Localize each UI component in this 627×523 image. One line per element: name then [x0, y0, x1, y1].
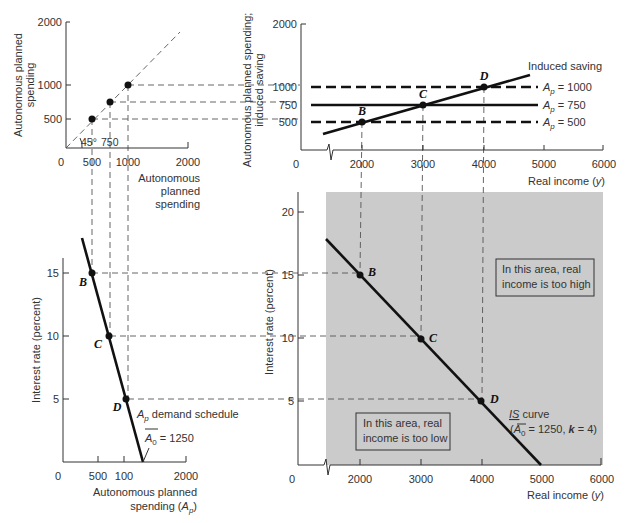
- tl-y-tick-1000: 1000: [38, 79, 62, 91]
- tl-y-label-2: spending: [24, 63, 36, 108]
- br-point-b: B: [367, 265, 376, 279]
- bl-point-d: D: [112, 400, 122, 414]
- br-point-d: D: [489, 392, 499, 406]
- tl-y-label-1: Autonomous planned: [12, 33, 24, 137]
- too-high-line-1: In this area, real: [502, 263, 581, 275]
- tr-induced-saving-label: Induced saving: [528, 60, 602, 72]
- bl-x-tick-2000: 2000: [174, 470, 198, 482]
- tr-x-label: Real income (y): [528, 175, 605, 187]
- is-curve-derivation-figure: 2000 1000 500 45° 750 0 500 1000 2000 Au…: [0, 0, 627, 523]
- br-x-tick-2000: 2000: [348, 473, 372, 485]
- br-x-tick-6000: 6000: [590, 473, 614, 485]
- tr-point-d: D: [479, 69, 489, 83]
- tl-x-tick-0: 0: [58, 156, 64, 168]
- br-y-tick-5: 5: [288, 395, 294, 407]
- tr-y-label-1: Autonomous planned spending;: [241, 13, 253, 168]
- tr-y-tick-750: 750: [279, 99, 297, 111]
- bl-point-c: C: [94, 337, 103, 351]
- bottom-left-chart: B C D 15 10 5 0 500 100 2000 Autonomous …: [30, 238, 239, 515]
- tl-y-tick-2000: 2000: [38, 16, 62, 28]
- tr-y-tick-2000: 2000: [273, 18, 297, 30]
- tr-point-c: C: [419, 87, 428, 101]
- bl-y-tick-10: 10: [47, 330, 59, 342]
- tl-750-label: 750: [101, 136, 119, 148]
- is-curve-label: IS curve: [509, 408, 549, 420]
- tr-x-tick-2000: 2000: [350, 158, 374, 170]
- br-x-tick-3000: 3000: [409, 473, 433, 485]
- tr-ap-1000-label: Ap = 1000: [542, 81, 592, 96]
- bl-y-label: Interest rate (percent): [30, 297, 42, 403]
- br-y-tick-15: 15: [282, 269, 294, 281]
- tr-y-label-2: induced saving: [253, 53, 265, 126]
- bl-x-label-2: spending (Ap): [130, 500, 197, 515]
- tl-x-tick-500: 500: [83, 156, 101, 168]
- tr-x-tick-6000: 6000: [592, 158, 616, 170]
- br-x-tick-0: 0: [289, 473, 295, 485]
- too-high-line-2: income is too high: [502, 278, 591, 290]
- br-x-tick-5000: 5000: [530, 473, 554, 485]
- tr-ap-500-label: Ap = 500: [542, 116, 586, 131]
- bl-y-tick-15: 15: [47, 267, 59, 279]
- tr-x-tick-4000: 4000: [472, 158, 496, 170]
- bl-demand-schedule-label: Ap demand schedule: [136, 408, 239, 423]
- tr-ap-750-label: Ap = 750: [542, 99, 586, 114]
- bl-point-b: B: [78, 275, 87, 289]
- top-left-chart: 2000 1000 500 45° 750 0 500 1000 2000 Au…: [12, 16, 200, 210]
- bl-a0-label: A0 = 1250: [144, 432, 194, 447]
- tl-x-tick-2000: 2000: [176, 156, 200, 168]
- tl-angle-label: 45°: [81, 136, 97, 148]
- br-x-tick-4000: 4000: [470, 473, 494, 485]
- bl-x-tick-100: 100: [115, 470, 133, 482]
- br-y-label: Interest rate (percent): [263, 269, 275, 375]
- br-point-c: C: [429, 331, 438, 345]
- tl-x-label-3: spending: [155, 198, 200, 210]
- tl-x-label-2: planned: [161, 185, 200, 197]
- br-y-tick-20: 20: [282, 206, 294, 218]
- tr-x-tick-3000: 3000: [411, 158, 435, 170]
- bl-y-tick-5: 5: [53, 393, 59, 405]
- tr-point-b: B: [357, 104, 366, 118]
- tr-y-tick-1000: 1000: [273, 81, 297, 93]
- bl-x-label-1: Autonomous planned: [93, 486, 197, 498]
- tr-x-tick-0: 0: [293, 158, 299, 170]
- tl-y-tick-500: 500: [44, 113, 62, 125]
- too-low-line-2: income is too low: [363, 432, 447, 444]
- tl-x-label-1: Autonomous: [138, 172, 200, 184]
- br-y-tick-10: 10: [282, 332, 294, 344]
- tr-y-tick-500: 500: [279, 116, 297, 128]
- tl-x-tick-1000: 1000: [116, 156, 140, 168]
- too-low-line-1: In this area, real: [363, 417, 442, 429]
- bl-x-tick-0: 0: [55, 470, 61, 482]
- top-right-chart: B C D 2000 1000 750 500 0 2000 3000 4000…: [241, 13, 616, 187]
- bl-x-tick-500: 500: [89, 470, 107, 482]
- tr-x-tick-5000: 5000: [532, 158, 556, 170]
- br-x-label: Real income (y): [527, 489, 604, 501]
